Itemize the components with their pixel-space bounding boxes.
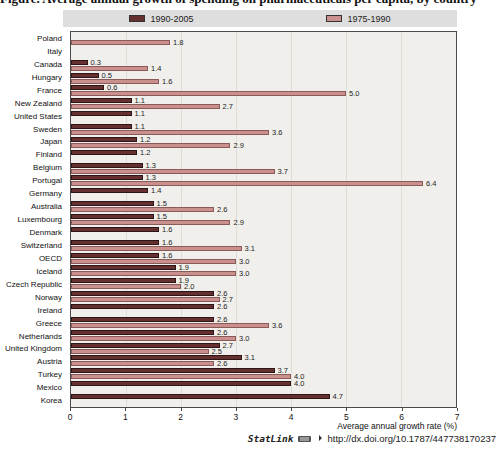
country-label: Korea <box>0 394 66 407</box>
value-label: 2.6 <box>217 207 227 212</box>
bar-1975-1990 <box>71 130 269 135</box>
x-tick-label: 4 <box>289 412 294 422</box>
x-tick-label: 1 <box>123 412 128 422</box>
country-label: Sweden <box>0 123 66 136</box>
bar-slot-1990-2005: 4.0 <box>71 381 456 386</box>
value-label: 2.7 <box>223 104 233 109</box>
country-label: Belgium <box>0 161 66 174</box>
bar-slot-1990-2005: 1.1 <box>71 124 456 129</box>
bar-row: 3.12.6 <box>71 354 456 367</box>
figure-title-text: Figure. Average annual growth of spendin… <box>0 0 500 6</box>
x-tick-label: 0 <box>68 412 73 422</box>
value-label: 2.6 <box>217 361 227 366</box>
bar-slot-1975-1990: 1.6 <box>71 79 456 84</box>
bar-slot-1990-2005: 0.5 <box>71 73 456 78</box>
bar-row: 2.62.7 <box>71 290 456 303</box>
value-label: 2.6 <box>217 317 227 322</box>
bar-slot-1975-1990 <box>71 400 456 405</box>
bar-1990-2005 <box>71 253 159 258</box>
bar-1990-2005 <box>71 394 330 399</box>
value-label: 2.0 <box>184 284 194 289</box>
bar-1990-2005 <box>71 368 275 373</box>
bar-row: 2.63.6 <box>71 316 456 329</box>
legend: 1990-2005 1975-1990 <box>63 10 457 27</box>
value-label: 2.9 <box>233 220 243 225</box>
country-label: Portugal <box>0 174 66 187</box>
statlink-url[interactable]: http://dx.doi.org/10.1787/447738170237 <box>327 433 496 444</box>
bar-row: 1.13.6 <box>71 123 456 136</box>
value-label: 1.5 <box>157 214 167 219</box>
bar-1975-1990 <box>71 297 220 302</box>
bar-slot-1975-1990: 4.0 <box>71 374 456 379</box>
bar-slot-1990-2005: 4.7 <box>71 394 456 399</box>
country-label: Czech Republic <box>0 278 66 291</box>
bar-1975-1990 <box>71 271 236 276</box>
country-label: Italy <box>0 45 66 58</box>
value-label: 2.5 <box>212 349 222 354</box>
bar-slot-1975-1990: 1.8 <box>71 40 456 45</box>
bar-slot-1975-1990: 3.0 <box>71 336 456 341</box>
bar-slot-1975-1990: 5.0 <box>71 91 456 96</box>
bar-slot-1975-1990: 2.6 <box>71 361 456 366</box>
bar-row: 1.33.7 <box>71 162 456 175</box>
value-label: 1.2 <box>140 137 150 142</box>
bar-slot-1975-1990: 3.0 <box>71 271 456 276</box>
x-axis-label: Average annual growth rate (%) <box>337 421 457 431</box>
bar-1975-1990 <box>71 207 214 212</box>
bar-row: 1.6 <box>71 226 456 239</box>
bar-1990-2005 <box>71 278 176 283</box>
bar-slot-1975-1990: 2.7 <box>71 104 456 109</box>
x-tick-mark <box>236 408 237 411</box>
bar-slot-1990-2005: 2.6 <box>71 291 456 296</box>
bar-1975-1990 <box>71 143 230 148</box>
value-label: 1.4 <box>151 188 161 193</box>
country-label: Finland <box>0 148 66 161</box>
bar-1975-1990 <box>71 66 148 71</box>
bar-row: 1.1 <box>71 110 456 123</box>
x-tick-mark <box>346 408 347 411</box>
bar-1990-2005 <box>71 291 214 296</box>
bar-slot-1990-2005: 1.6 <box>71 227 456 232</box>
country-label: Canada <box>0 58 66 71</box>
bar-1975-1990 <box>71 349 209 354</box>
value-label: 4.7 <box>333 394 343 399</box>
bar-1975-1990 <box>71 220 230 225</box>
bar-1990-2005 <box>71 188 148 193</box>
bar-slot-1990-2005: 2.6 <box>71 330 456 335</box>
bar-row: 1.93.0 <box>71 264 456 277</box>
bar-slot-1990-2005: 1.1 <box>71 111 456 116</box>
value-label: 3.6 <box>272 323 282 328</box>
bar-1975-1990 <box>71 40 170 45</box>
country-label: Greece <box>0 317 66 330</box>
plot-area: 1.80.31.40.51.60.65.01.12.71.11.13.61.22… <box>70 31 457 408</box>
value-label: 2.9 <box>233 143 243 148</box>
x-tick-label: 2 <box>178 412 183 422</box>
value-label: 1.5 <box>157 201 167 206</box>
value-label: 0.5 <box>102 73 112 78</box>
value-label: 4.0 <box>294 381 304 386</box>
bar-1990-2005 <box>71 137 137 142</box>
value-label: 3.0 <box>239 271 249 276</box>
country-label: Turkey <box>0 368 66 381</box>
country-label: Austria <box>0 355 66 368</box>
bar-1990-2005 <box>71 240 159 245</box>
country-label: Germany <box>0 187 66 200</box>
bar-slot-1990-2005: 1.5 <box>71 201 456 206</box>
figure-title-cropped: Figure. Average annual growth of spendin… <box>0 0 500 8</box>
statlink-footer: StatLink http://dx.doi.org/10.1787/44773… <box>248 433 496 444</box>
bar-row: 1.22.9 <box>71 136 456 149</box>
bar-slot-1975-1990 <box>71 117 456 122</box>
bar-row: 0.51.6 <box>71 72 456 85</box>
bar-slot-1975-1990 <box>71 310 456 315</box>
value-label: 3.7 <box>278 368 288 373</box>
bar-1975-1990 <box>71 336 236 341</box>
country-label: Ireland <box>0 304 66 317</box>
bar-slot-1990-2005: 0.3 <box>71 60 456 65</box>
bar-1975-1990 <box>71 323 269 328</box>
bar-1990-2005 <box>71 73 99 78</box>
bar-1975-1990 <box>71 361 214 366</box>
legend-swatch-1975-1990 <box>326 15 342 22</box>
bar-row: 1.36.4 <box>71 174 456 187</box>
value-label: 1.6 <box>162 240 172 245</box>
x-tick-label: 3 <box>233 412 238 422</box>
